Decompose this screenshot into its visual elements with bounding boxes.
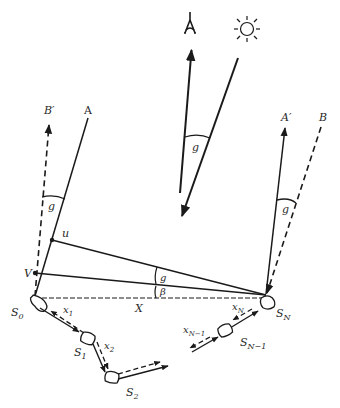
tower-icon <box>184 12 196 33</box>
label-x2: x2 <box>104 340 115 354</box>
label-x1: x1 <box>63 304 73 318</box>
point-u-label: u <box>62 227 69 240</box>
station-S1-icon <box>79 330 96 346</box>
angle-arc-left <box>42 196 65 199</box>
segment-in-SN1 <box>192 337 218 352</box>
angle-label-top: g <box>192 141 199 154</box>
angle-label-right: g <box>282 203 289 216</box>
label-A: A <box>83 104 93 117</box>
label-SN: SN <box>276 307 292 322</box>
angle-g-center-label: g <box>160 272 166 283</box>
point-V-label: V <box>24 267 33 280</box>
segment-S2-out-dashed <box>118 362 160 374</box>
station-S0-icon <box>27 293 49 313</box>
segment-S0-S1 <box>40 308 79 332</box>
label-B-prime: B′ <box>43 104 55 117</box>
angle-arc-beta-center <box>155 286 156 298</box>
label-xN-1: xN−1 <box>183 324 205 338</box>
station-SN-icon <box>260 295 276 311</box>
landmark-bearing-arrow <box>180 50 192 193</box>
line-u-to-SN <box>52 240 266 295</box>
angle-arc-g-center <box>155 267 157 284</box>
vector-X-label: X <box>134 302 144 315</box>
label-S0: S0 <box>11 306 24 321</box>
label-SN-1: SN−1 <box>240 336 266 351</box>
label-xN: xN <box>232 301 245 315</box>
station-SN-1-icon <box>216 322 234 338</box>
navigation-diagram: g A B′ g u V X g β A′ B g S0 x1 S1 x2 S2 <box>0 0 340 408</box>
line-A <box>35 118 88 296</box>
angle-label-left: g <box>48 200 55 213</box>
sun-bearing-arrow <box>182 58 238 216</box>
label-S1: S1 <box>74 346 87 361</box>
sun-icon <box>234 16 260 42</box>
segment-S2-out <box>118 366 168 379</box>
angle-beta-label: β <box>159 286 166 297</box>
station-S2-icon <box>104 370 120 384</box>
segment-in-SN1-dashed <box>190 337 210 348</box>
line-V-to-SN <box>35 273 266 295</box>
label-S2: S2 <box>126 386 139 401</box>
label-A-prime: A′ <box>280 111 292 124</box>
angle-arc-top <box>185 135 210 138</box>
label-B: B <box>318 111 327 124</box>
